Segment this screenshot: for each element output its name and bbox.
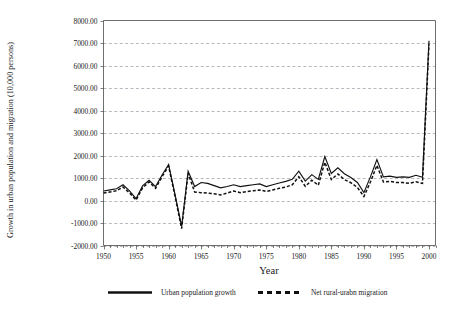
- x-tick-label: 2000: [422, 252, 437, 261]
- x-tick-label: 1960: [161, 252, 176, 261]
- x-tick-label: 1975: [259, 252, 274, 261]
- y-axis-title-group: Growth in urban population and migration…: [6, 42, 15, 238]
- x-tick-label: 1955: [129, 252, 144, 261]
- y-tick-label: 1000.00: [73, 174, 97, 183]
- y-tick-label: 6000.00: [73, 62, 97, 71]
- x-tick-label: 1985: [324, 252, 339, 261]
- legend-label-net-rural-urban-migration: Net rural-urabn migration: [311, 288, 388, 297]
- y-tick-label: 8000.00: [73, 17, 97, 26]
- y-tick-label: 4000.00: [73, 107, 97, 116]
- x-tick-label: 1990: [357, 252, 372, 261]
- x-tick-label: 1970: [226, 252, 241, 261]
- y-tick-label: 5000.00: [73, 84, 97, 93]
- y-tick-label: -1000.00: [71, 219, 98, 228]
- y-tick-label: -2000.00: [71, 242, 98, 251]
- chart-background: [0, 0, 451, 314]
- x-tick-label: 1965: [194, 252, 209, 261]
- y-tick-label: 7000.00: [73, 39, 97, 48]
- x-tick-label: 1950: [96, 252, 111, 261]
- y-tick-label: 2000.00: [73, 152, 97, 161]
- chart-figure: Growth in urban population and migration…: [0, 0, 451, 314]
- x-axis-title: Year: [259, 265, 279, 276]
- y-tick-label: 0.00: [85, 197, 98, 206]
- legend-label-urban-population-growth: Urban population growth: [161, 288, 236, 297]
- x-tick-label: 1980: [291, 252, 306, 261]
- x-tick-label: 1995: [389, 252, 404, 261]
- y-tick-label: 3000.00: [73, 129, 97, 138]
- y-axis-title: Growth in urban population and migration…: [6, 42, 15, 238]
